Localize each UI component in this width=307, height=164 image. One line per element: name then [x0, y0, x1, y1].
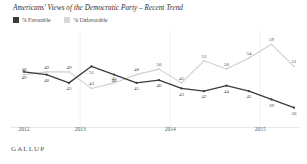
x-axis-tick-2013: 2013 — [75, 126, 86, 132]
svg-text:42: 42 — [202, 94, 208, 99]
svg-text:51: 51 — [89, 70, 95, 75]
x-axis-tick-2014: 2014 — [165, 126, 176, 132]
svg-text:46: 46 — [157, 83, 163, 88]
svg-text:51: 51 — [292, 59, 298, 64]
year-divider-lines — [10, 30, 300, 128]
source-attribution: GALLUP — [11, 145, 45, 153]
svg-text:54: 54 — [247, 51, 253, 56]
svg-text:48: 48 — [22, 67, 28, 72]
legend-label-favorable: % Favorable — [22, 17, 50, 23]
chart-plot-area: 48494943454850455350545951 4948455148454… — [0, 30, 307, 130]
x-axis: 2012201320142015 — [0, 126, 307, 138]
svg-text:50: 50 — [157, 62, 163, 67]
svg-text:53: 53 — [202, 54, 208, 59]
svg-text:59: 59 — [269, 37, 275, 42]
svg-text:48: 48 — [134, 67, 140, 72]
svg-text:48: 48 — [44, 78, 50, 83]
series-unfavorable-labels: 48494943454850455350545951 — [22, 37, 298, 86]
legend-swatch-favorable-icon — [13, 17, 19, 23]
svg-text:45: 45 — [179, 76, 185, 81]
svg-text:36: 36 — [292, 111, 298, 116]
svg-text:50: 50 — [224, 62, 230, 67]
legend-label-unfavorable: % Unfavorable — [73, 17, 107, 23]
svg-text:45: 45 — [134, 86, 140, 91]
svg-text:43: 43 — [89, 81, 95, 86]
svg-text:44: 44 — [224, 89, 230, 94]
svg-text:45: 45 — [67, 86, 73, 91]
legend-entry-favorable: % Favorable — [13, 17, 50, 23]
legend-entry-unfavorable: % Unfavorable — [64, 17, 107, 23]
legend-swatch-unfavorable-icon — [64, 17, 70, 23]
series-favorable-labels: 49484551484546434244423936 — [22, 70, 298, 116]
svg-text:49: 49 — [44, 65, 50, 70]
x-axis-tick-2015: 2015 — [255, 126, 266, 132]
svg-text:48: 48 — [112, 78, 118, 83]
svg-text:49: 49 — [67, 65, 73, 70]
chart-legend: % Favorable % Unfavorable — [13, 17, 107, 23]
chart-title: Americans' Views of the Democratic Party… — [13, 4, 183, 12]
x-axis-tick-2012: 2012 — [18, 126, 29, 132]
svg-text:39: 39 — [269, 103, 275, 108]
svg-text:43: 43 — [179, 92, 185, 97]
chart-container: Americans' Views of the Democratic Party… — [0, 0, 307, 164]
svg-text:49: 49 — [22, 75, 28, 80]
svg-text:42: 42 — [247, 94, 253, 99]
